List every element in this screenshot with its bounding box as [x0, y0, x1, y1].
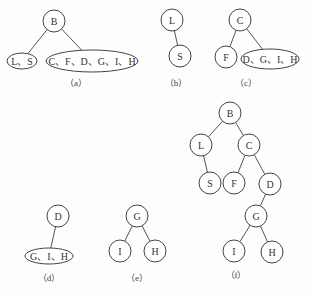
node-D: D — [47, 205, 69, 227]
node-B: B — [219, 102, 241, 124]
edge-L-S — [204, 156, 208, 173]
node-label: L — [169, 15, 175, 26]
node-label: S — [177, 51, 183, 62]
node-I: I — [109, 240, 131, 262]
node-label: C、F、D、G、I、H — [48, 56, 135, 67]
node-G: G — [126, 205, 148, 227]
node-S: S — [199, 172, 221, 194]
node-B: B — [43, 10, 65, 32]
edge-C-DGIH — [247, 29, 263, 50]
node-L: L — [190, 134, 212, 156]
node-CFDGIH: C、F、D、G、I、H — [46, 50, 138, 72]
node-label: D、G、I、H — [243, 54, 298, 65]
node-label: F — [231, 178, 237, 189]
caption-e: （e） — [126, 273, 148, 283]
node-label: D — [54, 211, 61, 222]
caption-b: （b） — [165, 78, 188, 88]
edge-G-H — [142, 226, 150, 241]
node-label: B — [227, 108, 234, 119]
node-F: F — [223, 172, 245, 194]
node-D: D — [259, 173, 281, 195]
edge-B-LS — [28, 30, 47, 54]
panel-b: LS（b） — [161, 9, 191, 88]
node-label: F — [223, 52, 229, 63]
node-H: H — [261, 241, 283, 263]
node-label: I — [118, 246, 121, 257]
panel-c: CFD、G、I、H（c） — [215, 9, 299, 88]
caption-a: （a） — [65, 78, 87, 88]
panel-d: DG、I、H（d） — [25, 205, 73, 283]
node-label: C — [246, 140, 253, 151]
diagram-canvas: BL、SC、F、D、G、I、H（a）LS（b）CFD、G、I、H（c）DG、I、… — [0, 0, 313, 294]
node-F: F — [215, 46, 237, 68]
node-label: G — [252, 211, 259, 222]
node-S: S — [169, 45, 191, 67]
node-label: H — [151, 246, 158, 257]
edge-G-I — [240, 225, 250, 241]
node-G: G — [245, 205, 267, 227]
caption-f: （f） — [226, 270, 247, 280]
node-label: C — [237, 15, 244, 26]
caption-c: （c） — [235, 78, 257, 88]
node-DGIH: D、G、I、H — [241, 49, 299, 69]
edge-B-L — [208, 121, 222, 137]
edge-D-G — [260, 194, 265, 206]
edge-D-GIH — [51, 227, 56, 248]
edge-B-CFDGIH — [62, 29, 82, 50]
node-label: B — [51, 16, 58, 27]
edge-L-S — [174, 31, 177, 46]
edge-C-F — [238, 155, 245, 173]
edge-B-C — [236, 122, 244, 135]
node-label: G、I、H — [30, 251, 68, 262]
edge-C-D — [254, 155, 265, 175]
edge-G-H — [260, 226, 267, 242]
node-label: D — [266, 179, 273, 190]
node-H: H — [144, 240, 166, 262]
node-LS: L、S — [7, 53, 37, 69]
caption-d: （d） — [38, 273, 61, 283]
node-GIH: G、I、H — [25, 248, 73, 264]
edge-G-I — [125, 226, 132, 241]
node-I: I — [223, 240, 245, 262]
node-L: L — [161, 9, 183, 31]
panel-e: GIH（e） — [109, 205, 166, 283]
panel-f: BLCSFDGIH（f） — [190, 102, 283, 280]
node-label: L、S — [11, 56, 33, 67]
node-label: I — [232, 246, 235, 257]
panel-a: BL、SC、F、D、G、I、H（a） — [7, 10, 138, 88]
node-label: H — [268, 247, 275, 258]
node-label: S — [207, 178, 213, 189]
node-label: L — [198, 140, 204, 151]
node-C: C — [238, 134, 260, 156]
node-label: G — [133, 211, 140, 222]
edge-C-F — [230, 30, 236, 46]
binary-tree-diagram: BL、SC、F、D、G、I、H（a）LS（b）CFD、G、I、H（c）DG、I、… — [0, 0, 313, 294]
node-C: C — [229, 9, 251, 31]
